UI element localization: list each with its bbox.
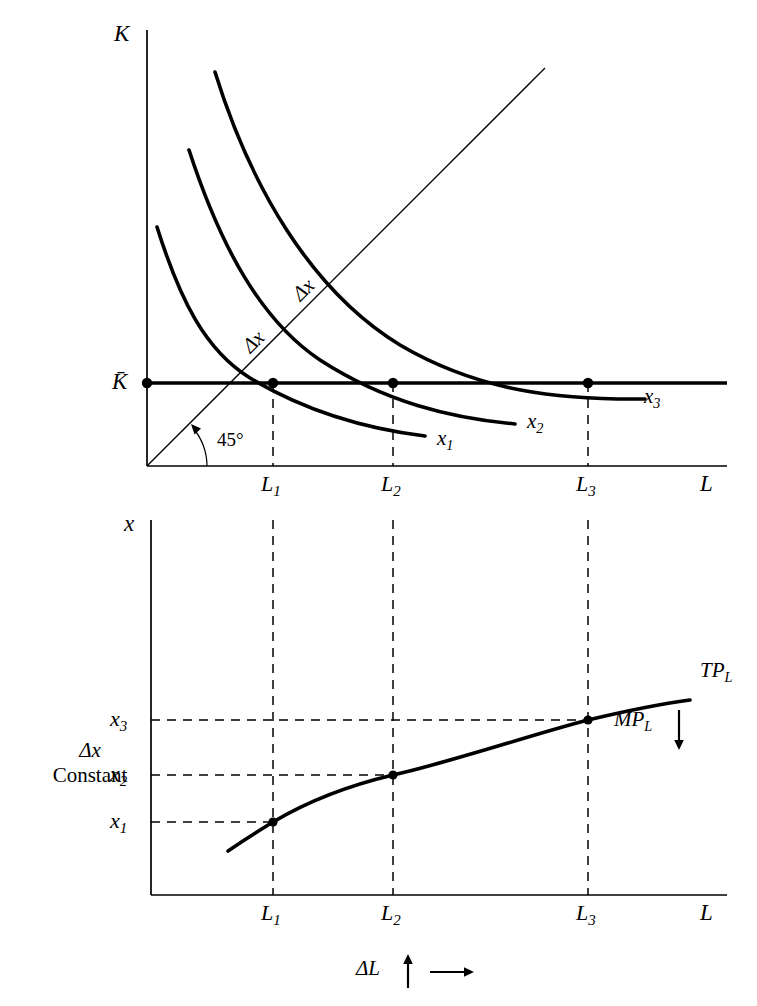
upper-x-axis-label: L: [700, 472, 713, 495]
lower-tick-L1: L1: [261, 902, 281, 928]
lower-tick-x1: x1: [110, 810, 127, 836]
tp-point-3: [583, 715, 592, 724]
isoquant-label-x1-base: x: [437, 426, 446, 450]
delta-l-up-arrow-head: [403, 954, 413, 964]
lower-y-axis-label: x: [124, 512, 134, 535]
isoquant-label-x2-sub: 2: [536, 420, 543, 436]
tp-l-label: TPL: [700, 660, 732, 684]
lower-tick-x2: x2: [110, 763, 127, 789]
isoquant-curve-x1: [157, 227, 425, 436]
isoquant-label-x1-sub: 1: [446, 437, 453, 453]
lower-tick-L3-base: L: [576, 900, 588, 925]
upper-tick-L1-sub: 1: [273, 483, 280, 499]
intersection-dot-x3: [583, 378, 593, 388]
delta-l-caption-text: ΔL: [356, 958, 380, 979]
isoquant-label-x1: x1: [437, 428, 453, 452]
lower-tick-x1-base: x: [110, 808, 120, 833]
tp-point-1: [268, 817, 277, 826]
tp-l-label-sub: L: [725, 669, 733, 685]
lower-tick-L3: L3: [576, 902, 596, 928]
isoquant-label-x3: x3: [644, 386, 660, 410]
isoquant-curve-x3: [215, 72, 645, 399]
tp-l-label-base: TP: [700, 658, 725, 682]
forty-five-degree-ray: [147, 68, 545, 466]
lower-tick-x3-sub: 3: [120, 718, 127, 734]
mp-l-arrow-head: [674, 740, 684, 750]
upper-tick-L2-sub: 2: [393, 483, 400, 499]
upper-tick-L2-base: L: [381, 471, 393, 496]
upper-y-axis-label: K: [114, 22, 129, 45]
isoquant-label-x3-sub: 3: [653, 395, 660, 411]
mp-l-label: MPL: [614, 709, 652, 733]
delta-x-constant-line1: Δx: [44, 738, 136, 763]
isoquant-label-x2-base: x: [527, 409, 536, 433]
lower-tick-L1-base: L: [261, 900, 273, 925]
lower-tick-x1-sub: 1: [120, 820, 127, 836]
isoquant-label-x3-base: x: [644, 384, 653, 408]
lower-tick-x2-base: x: [110, 761, 120, 786]
k-bar-label: K̄: [112, 370, 127, 393]
tp-point-2: [388, 770, 397, 779]
lower-tick-L3-sub: 3: [588, 912, 595, 928]
intersection-dot-x2: [388, 378, 398, 388]
lower-x-axis-label: L: [700, 901, 713, 924]
lower-tick-L2-base: L: [381, 900, 393, 925]
lower-tick-x3-base: x: [110, 706, 120, 731]
lower-tick-x2-sub: 2: [120, 773, 127, 789]
lower-tick-x3: x3: [110, 708, 127, 734]
upper-tick-L2: L2: [381, 473, 401, 499]
kbar-origin-dot: [142, 378, 152, 388]
intersection-dot-x1: [268, 378, 278, 388]
isoquant-label-x2: x2: [527, 411, 543, 435]
figure-root: K L K̄ 45° Δx Δx x1 x2 x3 L1 L2 L3 x L Δ…: [0, 0, 757, 1006]
upper-tick-L1-base: L: [261, 471, 273, 496]
mp-l-label-base: MP: [614, 707, 644, 731]
lower-tick-L2-sub: 2: [393, 912, 400, 928]
upper-tick-L3-sub: 3: [588, 483, 595, 499]
mp-l-label-sub: L: [644, 718, 652, 734]
angle-arrow-head: [191, 424, 201, 435]
lower-tick-L1-sub: 1: [273, 912, 280, 928]
upper-tick-L1: L1: [261, 473, 281, 499]
upper-tick-L3-base: L: [576, 471, 588, 496]
delta-l-right-arrow-head: [464, 967, 474, 977]
lower-tick-L2: L2: [381, 902, 401, 928]
figure-drawing: [0, 0, 757, 1006]
forty-five-degree-label: 45°: [217, 430, 244, 449]
upper-tick-L3: L3: [576, 473, 596, 499]
